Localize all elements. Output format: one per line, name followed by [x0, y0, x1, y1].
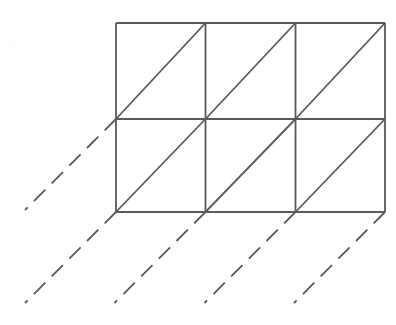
faint-artifact-group: [5, 39, 12, 44]
faint-speck: [5, 39, 12, 44]
figure-container: [0, 0, 396, 325]
mesh-diagram: [0, 0, 396, 325]
diagram-background: [0, 0, 396, 325]
